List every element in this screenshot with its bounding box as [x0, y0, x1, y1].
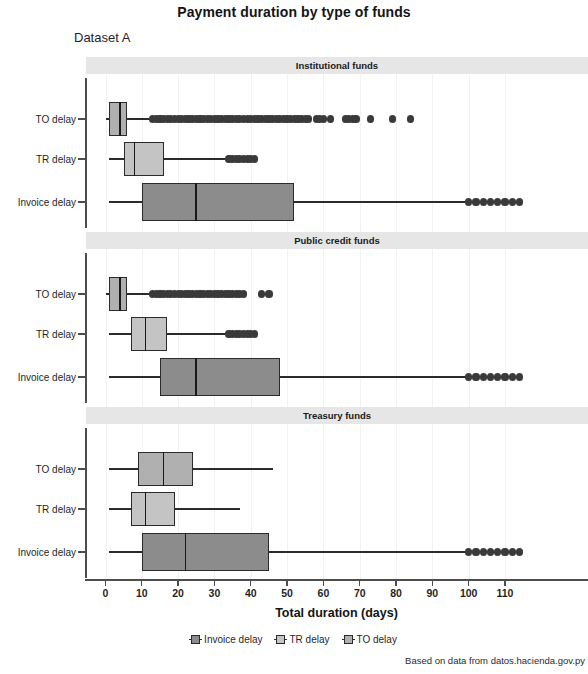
gridline: [432, 424, 433, 582]
facet-strip-label: Public credit funds: [86, 232, 588, 249]
gridline: [360, 74, 361, 232]
outlier-point: [509, 548, 516, 555]
box: [131, 492, 175, 526]
legend-label: Invoice delay: [204, 634, 262, 645]
y-axis-line: [85, 78, 87, 228]
y-axis-tick: [78, 508, 85, 509]
facet-strip: Treasury funds: [86, 407, 588, 424]
outlier-point: [487, 373, 494, 380]
chart-legend: Invoice delayTR delayTO delay: [0, 634, 588, 645]
y-axis-label-tr-delay: TR delay: [0, 329, 76, 340]
facet-panel: [86, 249, 588, 407]
x-axis-tick-label: 60: [318, 587, 330, 599]
y-axis-label-to-delay: TO delay: [0, 114, 76, 125]
outlier-point: [465, 548, 472, 555]
outlier-point: [516, 548, 523, 555]
box: [131, 317, 167, 351]
median-line: [119, 277, 121, 311]
chart-subtitle: Dataset A: [74, 30, 130, 45]
x-axis-line: [85, 579, 588, 581]
median-line: [134, 142, 136, 176]
gridline: [106, 74, 107, 232]
median-line: [195, 358, 197, 396]
x-axis-tick-label: 10: [136, 587, 148, 599]
x-axis-tick: [141, 581, 142, 586]
y-axis-tick: [78, 333, 85, 334]
x-axis-tick-label: 80: [390, 587, 402, 599]
y-axis-line: [85, 428, 87, 578]
y-axis-tick: [78, 118, 85, 119]
y-axis-label-tr-delay: TR delay: [0, 154, 76, 165]
x-axis-tick-label: 100: [460, 587, 478, 599]
facet-treasury-funds: Treasury funds: [86, 407, 588, 582]
y-axis-label-tr-delay: TR delay: [0, 504, 76, 515]
x-axis-tick: [468, 581, 469, 586]
gridline: [396, 249, 397, 407]
median-line: [195, 183, 197, 221]
x-axis-tick: [177, 581, 178, 586]
x-axis-tick: [323, 581, 324, 586]
outlier-point: [501, 373, 508, 380]
y-axis-tick: [78, 551, 85, 552]
median-line: [145, 492, 147, 526]
outlier-point: [501, 198, 508, 205]
outlier-point: [480, 548, 487, 555]
x-axis-tick-label: 90: [427, 587, 439, 599]
outlier-point: [501, 548, 508, 555]
y-axis-label-to-delay: TO delay: [0, 289, 76, 300]
outlier-point: [494, 548, 501, 555]
outlier-point: [258, 290, 265, 297]
legend-key-icon: [191, 635, 200, 644]
x-axis-title: Total duration (days): [85, 606, 588, 620]
median-line: [145, 317, 147, 351]
gridline: [505, 74, 506, 232]
legend-item-to-delay[interactable]: TO delay: [344, 634, 397, 645]
x-axis-tick: [105, 581, 106, 586]
box: [138, 452, 192, 486]
outlier-point: [480, 373, 487, 380]
box: [124, 142, 164, 176]
gridline: [360, 424, 361, 582]
median-line: [163, 452, 165, 486]
outlier-point: [516, 198, 523, 205]
y-axis-line: [85, 253, 87, 403]
gridline: [323, 424, 324, 582]
x-axis-tick-label: 50: [281, 587, 293, 599]
chart-caption: Based on data from datos.hacienda.gov.py: [405, 655, 585, 666]
x-axis-tick-label: 0: [103, 587, 109, 599]
gridline: [396, 74, 397, 232]
whisker-high: [193, 468, 273, 469]
facet-strip: Public credit funds: [86, 232, 588, 249]
facet-strip: Institutional funds: [86, 57, 588, 74]
outlier-point: [251, 155, 258, 162]
boxplot-chart: Payment duration by type of funds Datase…: [0, 0, 588, 674]
x-axis-tick: [250, 581, 251, 586]
gridline: [323, 74, 324, 232]
whisker-low: [109, 508, 131, 509]
gridline: [505, 249, 506, 407]
legend-item-invoice-delay[interactable]: Invoice delay: [191, 634, 262, 645]
outlier-point: [305, 115, 312, 122]
legend-label: TR delay: [289, 634, 329, 645]
outlier-point: [509, 198, 516, 205]
outlier-point: [494, 373, 501, 380]
legend-item-tr-delay[interactable]: TR delay: [276, 634, 329, 645]
x-axis-tick: [214, 581, 215, 586]
outlier-point: [265, 290, 272, 297]
y-axis-tick: [78, 468, 85, 469]
y-axis-tick: [78, 293, 85, 294]
median-line: [119, 102, 121, 136]
legend-key-icon: [276, 635, 285, 644]
facet-public-credit-funds: Public credit funds: [86, 232, 588, 407]
outlier-point: [472, 548, 479, 555]
x-axis-tick: [395, 581, 396, 586]
gridline: [287, 424, 288, 582]
y-axis-label-invoice-delay: Invoice delay: [0, 372, 76, 383]
facet-institutional-funds: Institutional funds: [86, 57, 588, 232]
outlier-point: [320, 115, 327, 122]
gridline: [360, 249, 361, 407]
x-axis-tick: [504, 581, 505, 586]
outlier-point: [367, 115, 374, 122]
y-axis-tick: [78, 376, 85, 377]
box: [109, 102, 127, 136]
